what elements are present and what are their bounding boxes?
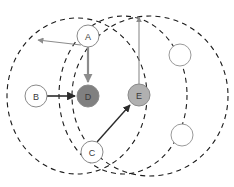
node-unlabeled-bottom[interactable] xyxy=(171,124,193,146)
node-c[interactable]: C xyxy=(81,141,103,163)
diagram-svg: A B C D E xyxy=(0,0,234,187)
node-a[interactable]: A xyxy=(77,25,99,47)
diagram-canvas: A B C D E xyxy=(0,0,234,187)
node-d-circle[interactable] xyxy=(77,85,99,107)
node-b-circle[interactable] xyxy=(25,85,47,107)
node-b[interactable]: B xyxy=(25,85,47,107)
node-d[interactable]: D xyxy=(77,85,99,107)
node-a-circle[interactable] xyxy=(77,25,99,47)
node-c-circle[interactable] xyxy=(81,141,103,163)
node-unlabeled-top[interactable] xyxy=(169,44,191,66)
edge-c-to-e xyxy=(97,105,130,142)
node-e[interactable]: E xyxy=(128,84,150,106)
node-group: A B C D E xyxy=(25,25,193,163)
node-e-circle[interactable] xyxy=(128,84,150,106)
